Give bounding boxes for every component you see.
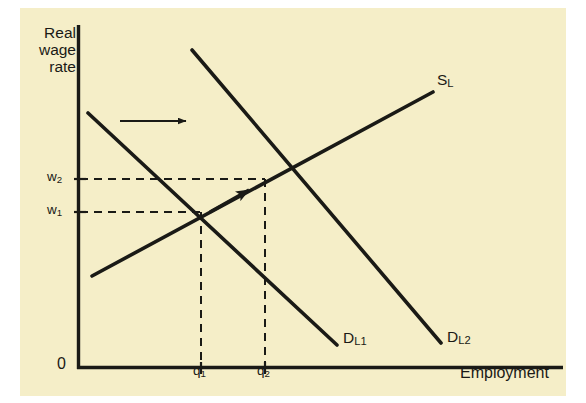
x-axis-title: Employment (460, 365, 549, 382)
x-tick-label-q2: q2 (257, 364, 270, 378)
x-tick-label-q1-subscript: 1 (201, 368, 206, 379)
supply-curve-sl (92, 92, 433, 276)
origin-label: 0 (57, 356, 66, 373)
page-top-margin (0, 0, 586, 5)
curve-label-sl: SL (437, 72, 454, 88)
axis-lines (77, 25, 563, 369)
y-tick-label-w1-main: w (47, 202, 57, 217)
y-axis-title: Real wage rate (18, 24, 76, 75)
curve-label-dl2-main: D (447, 328, 458, 345)
y-tick-label-w1-subscript: 1 (57, 207, 62, 218)
curve-label-sl-subscript: L (447, 77, 453, 89)
curve-label-dl2-subscript: L2 (458, 334, 470, 346)
y-tick-label-w2-main: w (47, 169, 57, 184)
curve-label-sl-main: S (437, 71, 447, 88)
y-tick-label-w2-subscript: 2 (57, 174, 62, 185)
curve-label-dl1-main: D (343, 329, 354, 346)
guide-lines (80, 179, 265, 365)
figure-root: Real wage rate Employment 0 w2 w1 q1 q2 … (0, 0, 586, 403)
y-axis-title-line2: wage (18, 41, 76, 58)
curve-label-dl1-subscript: L1 (354, 335, 366, 347)
x-tick-label-q2-subscript: 2 (265, 368, 270, 379)
equilibrium-move-arrow (210, 190, 249, 212)
y-axis-title-line1: Real (18, 24, 76, 41)
y-axis-title-line3: rate (18, 58, 76, 75)
curve-label-dl1: DL1 (343, 330, 367, 346)
x-tick-label-q2-main: q (257, 363, 265, 378)
annotation-arrows (120, 121, 249, 212)
demand-curve-dl1 (88, 113, 337, 345)
x-tick-label-q1: q1 (193, 364, 206, 378)
chart-graphics (0, 0, 586, 403)
x-tick-label-q1-main: q (193, 363, 201, 378)
axis-ticks (74, 179, 265, 374)
curve-label-dl2: DL2 (447, 329, 471, 345)
y-tick-label-w1: w1 (47, 203, 62, 217)
demand-curve-dl2 (192, 50, 441, 343)
y-tick-label-w2: w2 (47, 170, 62, 184)
